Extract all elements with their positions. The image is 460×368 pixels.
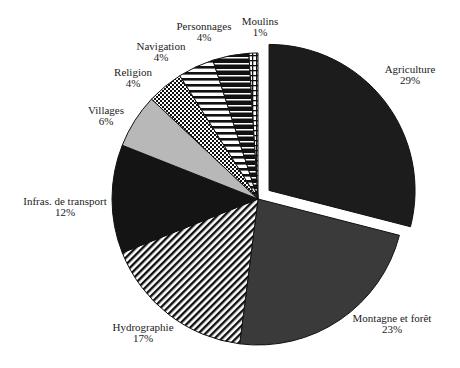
slice-percent: 4% [154,51,169,63]
slice-percent: 12% [55,206,75,218]
slice-percent: 17% [133,332,153,344]
slice-percent: 23% [382,323,402,335]
slice-percent: 1% [253,26,268,38]
pie-chart: Agriculture29%Montagne et forêt23%Hydrog… [0,0,460,368]
slice-percent: 6% [99,115,114,127]
pie-slices [112,44,415,345]
slice-percent: 4% [197,31,212,43]
slice-percent: 29% [400,74,420,86]
slice-percent: 4% [126,77,141,89]
